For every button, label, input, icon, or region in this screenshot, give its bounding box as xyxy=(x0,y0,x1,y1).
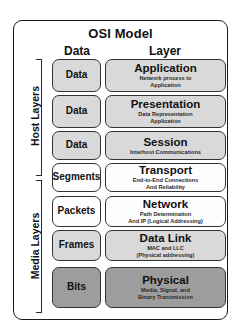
data-unit-label: Packets xyxy=(58,206,96,217)
osi-model-diagram: OSI Model Data Layer Host Layers Media L… xyxy=(0,0,242,335)
layer-box[interactable]: PresentationData RepresentationApplicati… xyxy=(105,95,226,128)
layer-description: End-to-End ConnectionsAnd Reliability xyxy=(130,177,202,191)
layer-box[interactable]: PhysicalMedia, Signal, andBinary Transmi… xyxy=(105,267,226,308)
layer-name: Physical xyxy=(142,274,189,286)
host-layers-bracket-tick-bottom xyxy=(36,175,42,176)
layer-description-line: End-to-End Connections xyxy=(133,177,199,184)
layer-name: Session xyxy=(143,136,187,148)
host-layers-bracket-tick-top xyxy=(36,59,42,60)
layer-description-line: Network process to xyxy=(140,75,192,82)
osi-layer-row: FramesData LinkMAC and LLC(Physical addr… xyxy=(52,230,226,261)
layer-box[interactable]: Data LinkMAC and LLC(Physical addressing… xyxy=(105,230,226,261)
layer-name: Presentation xyxy=(131,98,201,110)
data-unit-box[interactable]: Data xyxy=(52,59,101,92)
layer-description-line: Interhost Communications xyxy=(130,149,201,156)
layer-box[interactable]: TransportEnd-to-End ConnectionsAnd Relia… xyxy=(105,163,226,192)
host-layers-label: Host Layers xyxy=(29,76,41,156)
data-unit-box[interactable]: Frames xyxy=(52,230,101,261)
data-unit-box[interactable]: Segments xyxy=(52,163,101,192)
layer-name: Application xyxy=(134,62,197,74)
layer-description: MAC and LLC(Physical addressing) xyxy=(134,245,198,259)
layer-description-line: Media, Signal, and xyxy=(138,287,193,294)
layer-description-line: Application xyxy=(138,118,192,125)
layer-description: Interhost Communications xyxy=(127,149,204,156)
data-unit-box[interactable]: Bits xyxy=(52,267,101,308)
layer-name: Network xyxy=(143,198,188,210)
layer-description-line: MAC and LLC xyxy=(137,245,195,252)
data-unit-label: Data xyxy=(66,70,88,81)
layer-description: Network process toApplication xyxy=(137,75,195,89)
osi-layer-row: SegmentsTransportEnd-to-End ConnectionsA… xyxy=(52,163,226,192)
data-unit-label: Data xyxy=(66,140,88,151)
data-unit-label: Data xyxy=(66,106,88,117)
media-layers-label: Media Layers xyxy=(29,206,41,286)
osi-layer-row: BitsPhysicalMedia, Signal, andBinary Tra… xyxy=(52,267,226,308)
layer-description-line: Application xyxy=(140,82,192,89)
layer-description-line: And IP (Logical Addressing) xyxy=(128,218,203,225)
osi-layer-row: PacketsNetworkPath DeterminationAnd IP (… xyxy=(52,196,226,227)
media-layers-bracket xyxy=(41,180,42,313)
media-layers-bracket-tick-top xyxy=(36,180,42,181)
layer-description-line: Path Determination xyxy=(128,211,203,218)
layer-box[interactable]: ApplicationNetwork process toApplication xyxy=(105,59,226,92)
data-unit-box[interactable]: Data xyxy=(52,131,101,160)
layer-name: Transport xyxy=(139,164,192,176)
layer-name: Data Link xyxy=(140,232,192,244)
osi-layer-row: DataPresentationData RepresentationAppli… xyxy=(52,95,226,128)
layer-description-line: And Reliability xyxy=(133,184,199,191)
layer-description-line: (Physical addressing) xyxy=(137,252,195,259)
osi-layer-row: DataApplicationNetwork process toApplica… xyxy=(52,59,226,92)
column-header-layer: Layer xyxy=(104,44,226,58)
host-layers-bracket xyxy=(41,59,42,176)
layer-description: Path DeterminationAnd IP (Logical Addres… xyxy=(125,211,206,225)
data-unit-box[interactable]: Data xyxy=(52,95,101,128)
data-unit-box[interactable]: Packets xyxy=(52,196,101,227)
diagram-title: OSI Model xyxy=(13,26,228,41)
data-unit-label: Segments xyxy=(53,172,101,183)
layer-description-line: Data Representation xyxy=(138,111,192,118)
data-unit-label: Bits xyxy=(67,282,86,293)
layer-description-line: Binary Transmission xyxy=(138,294,193,301)
column-header-data: Data xyxy=(52,44,102,58)
media-layers-bracket-tick-bottom xyxy=(36,312,42,313)
layer-description: Data RepresentationApplication xyxy=(135,111,195,125)
layer-box[interactable]: SessionInterhost Communications xyxy=(105,131,226,160)
layer-box[interactable]: NetworkPath DeterminationAnd IP (Logical… xyxy=(105,196,226,227)
data-unit-label: Frames xyxy=(59,240,95,251)
osi-layer-row: DataSessionInterhost Communications xyxy=(52,131,226,160)
layer-description: Media, Signal, andBinary Transmission xyxy=(135,287,196,301)
